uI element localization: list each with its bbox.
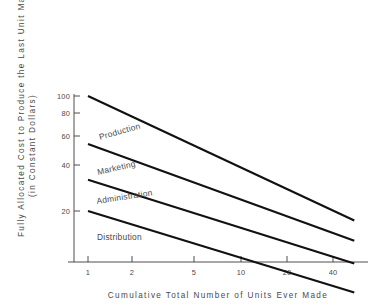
x-tick-label-5: 5 [192,268,196,277]
x-axis-title: Cumulative Total Number of Units Ever Ma… [108,291,328,300]
y-tick-label-40: 40 [61,161,70,170]
x-tick-label-10: 10 [237,268,246,277]
y-axis-tick-labels: 100 80 60 40 20 [57,92,70,216]
x-tick-label-1: 1 [86,268,90,277]
y-axis-title-line2: (in Constant Dollars) [28,94,37,197]
y-tick-label-60: 60 [61,132,70,141]
y-tick-label-80: 80 [61,109,70,118]
chart-figure: Fully Allocated Cost to Produce the Last… [0,0,381,307]
x-tick-label-2: 2 [130,268,134,277]
y-axis-title: Fully Allocated Cost to Produce the Last… [17,0,37,237]
series-label-production: Production [98,121,142,142]
series-label-administration: Administration [96,187,154,206]
x-tick-label-40: 40 [329,268,338,277]
series-label-marketing: Marketing [96,158,136,177]
y-axis-title-line1: Fully Allocated Cost to Produce the Last… [17,0,26,237]
series-label-distribution: Distribution [97,232,142,242]
y-axis-ticks [74,96,80,211]
y-tick-label-100: 100 [57,92,70,101]
chart-canvas: Fully Allocated Cost to Produce the Last… [0,0,381,307]
series-label-group: ProductionMarketingAdministrationDistrib… [96,121,154,242]
y-tick-label-20: 20 [61,207,70,216]
x-axis-ticks [88,256,333,262]
